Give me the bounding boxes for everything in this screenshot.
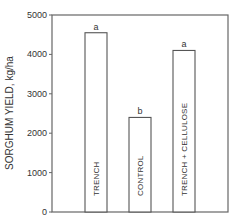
bar-chart: 010002000300040005000 aTRENCHbCONTROLaTR… [0,0,239,222]
y-tick-label: 1000 [27,168,47,178]
bar-category-label: TRENCH + CELLULOSE [180,103,189,196]
y-axis-title: SORGHUM YIELD, kg/ha [4,56,15,170]
significance-letter: b [137,106,142,116]
y-tick-label: 2000 [27,128,47,138]
y-tick-label: 5000 [27,10,47,20]
significance-letter: a [93,22,98,32]
significance-letter: a [181,39,186,49]
bar-category-label: TRENCH [92,161,101,196]
bar-category-label: CONTROL [136,155,145,196]
y-tick-label: 0 [42,207,47,217]
y-tick-label: 4000 [27,49,47,59]
y-tick-label: 3000 [27,89,47,99]
